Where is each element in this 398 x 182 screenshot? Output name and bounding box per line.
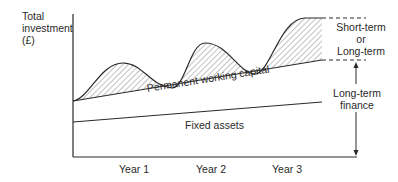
- long-term-text: Long-term: [331, 45, 391, 57]
- or-text: or: [331, 33, 391, 45]
- y-axis-label: Total investment (£): [22, 10, 73, 46]
- short-term-text: Short-term: [331, 21, 391, 33]
- fixed-assets-label: Fixed assets: [185, 119, 244, 131]
- arrow-down-icon: [354, 150, 359, 156]
- long-term-finance-label: Long-term finance: [333, 87, 381, 111]
- arrow-up-icon: [354, 62, 359, 68]
- long-term-finance-line1: Long-term: [333, 87, 381, 99]
- x-tick-year-3: Year 3: [272, 163, 302, 175]
- x-tick-year-2: Year 2: [196, 163, 226, 175]
- long-term-finance-line2: finance: [333, 99, 381, 111]
- y-axis-label-line1: Total: [22, 10, 73, 22]
- y-axis-label-line2: investment: [22, 22, 73, 34]
- short-or-long-term-label: Short-term or Long-term: [331, 21, 391, 57]
- y-axis-label-line3: (£): [22, 34, 73, 46]
- fluctuating-working-capital-area: [73, 18, 322, 101]
- x-tick-year-1: Year 1: [119, 163, 149, 175]
